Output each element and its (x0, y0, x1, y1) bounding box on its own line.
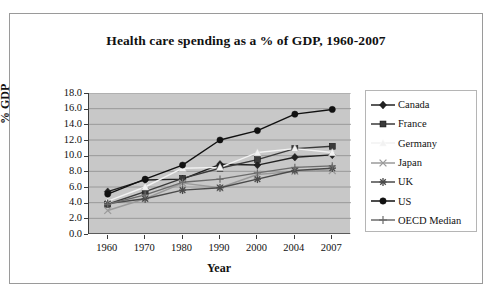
x-axis-tick-label: 2007 (309, 242, 353, 253)
y-axis-tick-label: 16.0 (42, 102, 82, 113)
x-axis-tick-mark (219, 235, 220, 239)
y-axis-tick-label: 2.0 (42, 212, 82, 223)
circle-marker-icon (370, 194, 396, 208)
x-marker-icon (370, 156, 396, 170)
y-axis-tick-label: 4.0 (42, 196, 82, 207)
y-axis-tick-label: 6.0 (42, 181, 82, 192)
chart-title: Health care spending as a % of GDP, 1960… (10, 33, 482, 49)
y-axis-tick-label: 8.0 (42, 165, 82, 176)
y-axis-tick-label: 10.0 (42, 149, 82, 160)
legend-item-france[interactable]: France (370, 114, 476, 133)
y-axis-tick-label: 12.0 (42, 134, 82, 145)
legend-item-uk[interactable]: UK (370, 172, 476, 191)
chart-frame: Health care spending as a % of GDP, 1960… (9, 13, 483, 284)
triangle-marker-icon (370, 136, 396, 150)
y-axis-tick-label: 14.0 (42, 118, 82, 129)
legend-item-label: France (396, 118, 427, 129)
y-axis-title: % GDP (0, 84, 13, 124)
legend-item-label: Germany (396, 138, 437, 149)
plus-marker-icon (370, 213, 396, 227)
plot-area (88, 93, 350, 234)
legend-item-label: UK (396, 176, 413, 187)
legend-item-label: Canada (396, 99, 430, 110)
square-marker-icon (370, 117, 396, 131)
plot-wrapper (88, 93, 350, 234)
x-axis-tick-mark (256, 235, 257, 239)
x-axis-tick-mark (331, 235, 332, 239)
legend-item-oecd-median[interactable]: OECD Median (370, 211, 476, 230)
y-axis-tick-label: 18.0 (42, 87, 82, 98)
x-axis-tick-mark (182, 235, 183, 239)
star-marker-icon (370, 175, 396, 189)
legend-item-us[interactable]: US (370, 191, 476, 210)
y-axis-tick-label: 0.0 (42, 228, 82, 239)
series-canvas (89, 93, 351, 234)
legend-item-label: Japan (396, 157, 422, 168)
x-axis-title: Year (88, 261, 350, 276)
chart-legend: CanadaFranceGermanyJapanUKUSOECD Median (365, 90, 477, 232)
x-axis-tick-mark (144, 235, 145, 239)
legend-item-label: OECD Median (396, 215, 461, 226)
legend-item-germany[interactable]: Germany (370, 134, 476, 153)
x-axis-tick-mark (294, 235, 295, 239)
legend-item-canada[interactable]: Canada (370, 95, 476, 114)
x-axis-tick-mark (107, 235, 108, 239)
legend-item-label: US (396, 196, 411, 207)
legend-item-japan[interactable]: Japan (370, 153, 476, 172)
diamond-marker-icon (370, 98, 396, 112)
y-axis-tick-mark (84, 234, 88, 235)
